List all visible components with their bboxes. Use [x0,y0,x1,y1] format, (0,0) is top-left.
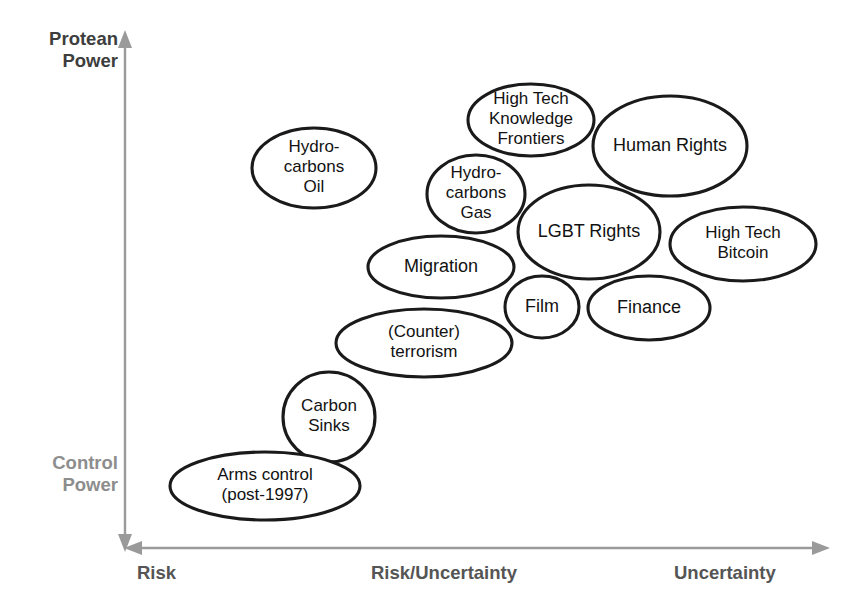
bubble-label: LGBT Rights [538,221,641,241]
bubble-label: (Counter)terrorism [388,322,460,361]
bubble-hydrocarbons-oil[interactable]: Hydro-carbonsOil [252,128,376,208]
bubble-label: Finance [617,297,681,317]
bubble-high-tech-knowledge-frontiers[interactable]: High TechKnowledgeFrontiers [468,84,594,156]
bubble-carbon-sinks[interactable]: CarbonSinks [283,372,375,462]
bubble-human-rights[interactable]: Human Rights [593,96,747,196]
y-axis-bottom-label: Control Power [18,452,118,496]
y-axis-top-label: Protean Power [18,28,118,72]
y-axis-arrowhead-up [118,30,132,48]
bubble-label: Migration [404,256,478,276]
protean-power-bubble-diagram: Hydro-carbonsOilHigh TechKnowledgeFronti… [0,0,854,616]
bubble-layer: Hydro-carbonsOilHigh TechKnowledgeFronti… [170,84,816,520]
bubble-migration[interactable]: Migration [368,236,514,298]
bubble-label: Human Rights [613,135,727,155]
bubble-label: High TechKnowledgeFrontiers [489,89,573,149]
bubble-arms-control[interactable]: Arms control(post-1997) [170,452,360,520]
bubble-lgbt-rights[interactable]: LGBT Rights [518,185,660,279]
bubble-counter-terrorism[interactable]: (Counter)terrorism [336,309,512,377]
x-axis [124,541,830,555]
bubble-label: Film [525,296,559,316]
bubble-finance[interactable]: Finance [588,276,710,340]
bubble-film[interactable]: Film [505,276,579,338]
bubble-label: CarbonSinks [301,396,357,435]
y-axis [118,30,132,552]
x-axis-tick-uncertainty: Uncertainty [674,562,776,584]
diagram-canvas: Hydro-carbonsOilHigh TechKnowledgeFronti… [0,0,854,616]
x-axis-tick-risk-uncertainty: Risk/Uncertainty [371,562,517,584]
x-axis-arrowhead-right [812,541,830,555]
bubble-hydrocarbons-gas[interactable]: Hydro-carbonsGas [427,155,525,233]
x-axis-tick-risk: Risk [137,562,176,584]
bubble-high-tech-bitcoin[interactable]: High TechBitcoin [670,207,816,281]
bubble-label: Arms control(post-1997) [217,465,312,504]
